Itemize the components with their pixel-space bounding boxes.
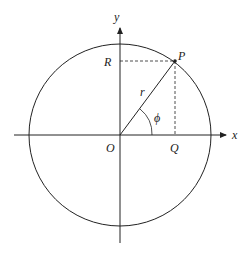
polar-diagram: y x O Q R P r ϕ	[0, 0, 249, 257]
label-y: y	[113, 10, 120, 24]
angle-arc	[140, 109, 152, 135]
label-p: P	[177, 49, 186, 63]
radius-line	[120, 61, 175, 135]
point-p	[173, 59, 177, 63]
label-q: Q	[170, 141, 179, 155]
label-radius: r	[140, 85, 145, 99]
label-phi: ϕ	[154, 111, 160, 125]
label-x: x	[231, 128, 238, 142]
label-o: O	[106, 141, 115, 155]
label-r-point: R	[103, 55, 112, 69]
